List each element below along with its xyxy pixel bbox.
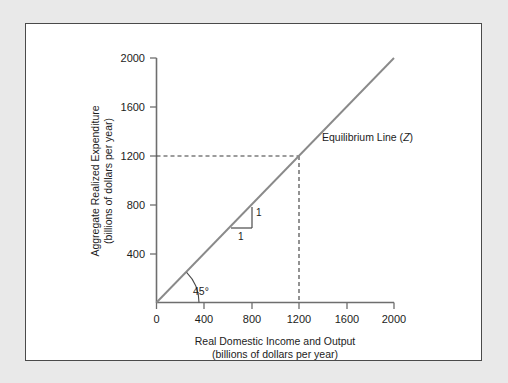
y-tick-label-2000: 2000 [121,52,145,64]
y-tick-label-800: 800 [127,199,145,211]
equilibrium-line-label-close: ) [410,131,414,143]
y-tick-label-400: 400 [127,248,145,260]
y-tick-label-1200: 1200 [121,150,145,162]
x-tick-label-800: 800 [243,313,261,325]
chart-canvas: 2000 1600 1200 800 400 0 400 800 1200 16… [26,24,483,362]
x-tick-label-2000: 2000 [382,313,406,325]
y-tick-label-1600: 1600 [121,101,145,113]
y-axis-title: Aggregate Realized Expenditure [89,105,101,256]
angle-label: 45° [193,285,209,297]
x-axis-subtitle: (billions of dollars per year) [212,348,338,360]
x-tick-label-400: 400 [195,313,213,325]
equilibrium-line-label: Equilibrium Line (Z) [322,131,413,143]
x-tick-label-0: 0 [153,313,159,325]
y-axis-subtitle: (billions of dollars per year) [102,118,114,244]
slope-rise-label: 1 [256,207,262,218]
x-axis-title: Real Domestic Income and Output [195,335,356,347]
x-tick-label-1200: 1200 [287,313,311,325]
figure-panel: 2000 1600 1200 800 400 0 400 800 1200 16… [25,23,482,361]
x-tick-label-1600: 1600 [335,313,359,325]
equilibrium-line [157,58,395,303]
slope-run-label: 1 [238,231,244,242]
equilibrium-line-label-text: Equilibrium Line ( [322,131,404,143]
